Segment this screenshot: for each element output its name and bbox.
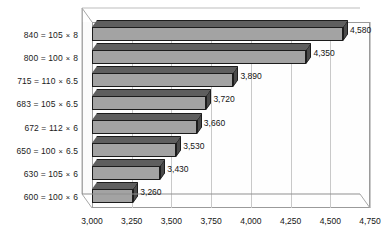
x-tick-label: 4,250 xyxy=(280,216,301,226)
bar-front-face xyxy=(92,73,233,87)
bar xyxy=(92,50,306,64)
data-label: 3,260 xyxy=(140,187,161,197)
bar xyxy=(92,73,233,87)
bar xyxy=(92,143,176,157)
category-label: 683 = 105 × 6.5 xyxy=(17,99,78,109)
data-label: 3,660 xyxy=(204,118,225,128)
data-label: 4,350 xyxy=(313,48,334,58)
x-tick-label: 4,000 xyxy=(240,216,261,226)
bar-front-face xyxy=(92,27,343,41)
bar-front-face xyxy=(92,143,176,157)
category-label: 715 = 110 × 6.5 xyxy=(17,76,78,86)
category-label: 800 = 100 × 8 xyxy=(24,53,78,63)
bar-top-face xyxy=(92,20,348,27)
x-tick-label: 3,250 xyxy=(121,216,142,226)
bar xyxy=(92,27,343,41)
bar xyxy=(92,96,206,110)
bar-top-face xyxy=(92,136,181,143)
category-label: 672 = 112 × 6 xyxy=(24,123,78,133)
bar-chart: 840 = 105 × 8800 = 100 × 8715 = 110 × 6.… xyxy=(0,0,389,244)
bar-top-face xyxy=(92,159,165,166)
plot-left-wall xyxy=(82,8,92,194)
x-tick-label: 3,500 xyxy=(161,216,182,226)
bar-front-face xyxy=(92,189,133,203)
bar-top-face xyxy=(92,66,238,73)
category-label: 630 = 105 × 6 xyxy=(24,169,78,179)
bar-top-face xyxy=(92,182,138,189)
x-tick-label: 4,750 xyxy=(359,216,380,226)
bar xyxy=(92,166,160,180)
bar-front-face xyxy=(92,120,197,134)
x-tick-label: 3,750 xyxy=(201,216,222,226)
bar-top-face xyxy=(92,113,202,120)
bar-front-face xyxy=(92,166,160,180)
data-label: 3,720 xyxy=(213,94,234,104)
category-label: 650 = 100 × 6.5 xyxy=(17,146,78,156)
data-label: 3,430 xyxy=(167,164,188,174)
data-label: 3,890 xyxy=(240,71,261,81)
bar xyxy=(92,120,197,134)
category-label: 840 = 105 × 8 xyxy=(24,30,78,40)
data-label: 3,530 xyxy=(183,141,204,151)
x-tick-label: 4,500 xyxy=(320,216,341,226)
bar-front-face xyxy=(92,50,306,64)
gridline xyxy=(370,22,371,208)
bar-front-face xyxy=(92,96,206,110)
bar-top-face xyxy=(92,89,211,96)
bar xyxy=(92,189,133,203)
category-label: 600 = 100 × 6 xyxy=(24,192,78,202)
x-tick-label: 3,000 xyxy=(81,216,102,226)
data-label: 4,580 xyxy=(350,25,371,35)
bar-top-face xyxy=(92,43,312,50)
